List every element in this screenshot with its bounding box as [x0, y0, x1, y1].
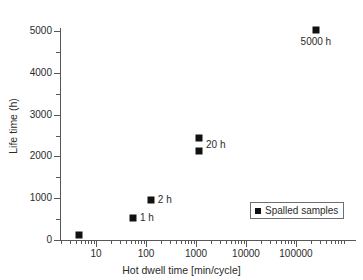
x-tick-minor	[185, 240, 186, 244]
x-tick-minor	[341, 240, 342, 244]
x-tick-minor	[91, 240, 92, 244]
data-point-label: 1 h	[140, 213, 154, 223]
x-tick-minor	[335, 240, 336, 244]
y-tick-label: 5000	[30, 26, 52, 36]
y-tick-minor	[56, 219, 61, 220]
x-tick-minor	[285, 240, 286, 244]
x-tick-minor	[81, 240, 82, 244]
x-tick-minor	[141, 240, 142, 244]
y-tick-major	[54, 198, 61, 199]
data-point-label: 2 h	[158, 195, 172, 205]
x-tick-minor	[88, 240, 89, 244]
y-tick-minor	[56, 52, 61, 53]
y-tick-minor	[56, 94, 61, 95]
x-tick-minor	[331, 240, 332, 244]
x-tick-minor	[170, 240, 171, 244]
x-tick-minor	[111, 240, 112, 244]
y-tick-label: 2000	[30, 151, 52, 161]
legend-marker-icon	[255, 208, 261, 214]
x-tick-minor	[85, 240, 86, 244]
x-tick-minor	[161, 240, 162, 244]
x-tick-minor	[76, 240, 77, 244]
x-tick-minor	[94, 240, 95, 244]
scatter-chart-figure: 0100020003000400050001010010001000010000…	[0, 0, 363, 280]
x-tick-minor	[135, 240, 136, 244]
data-point-marker	[147, 196, 154, 203]
x-tick-major	[146, 240, 147, 247]
x-tick-label: 100000	[279, 249, 312, 259]
x-tick-minor	[188, 240, 189, 244]
y-tick-label: 1000	[30, 193, 52, 203]
x-tick-major	[296, 240, 297, 247]
x-tick-minor	[281, 240, 282, 244]
x-tick-minor	[338, 240, 339, 244]
x-tick-label: 100	[138, 249, 155, 259]
y-tick-minor	[56, 177, 61, 178]
y-axis-line	[60, 28, 61, 241]
data-point-marker	[196, 135, 203, 142]
x-tick-major	[246, 240, 247, 247]
data-point-marker	[130, 215, 137, 222]
x-tick-minor	[244, 240, 245, 244]
x-tick-minor	[276, 240, 277, 244]
x-tick-minor	[61, 240, 62, 244]
y-tick-major	[54, 115, 61, 116]
x-tick-minor	[235, 240, 236, 244]
legend[interactable]: Spalled samples	[250, 202, 344, 219]
x-tick-minor	[138, 240, 139, 244]
y-tick-major	[54, 156, 61, 157]
y-tick-label: 0	[46, 235, 52, 245]
x-tick-minor	[211, 240, 212, 244]
y-tick-minor	[56, 136, 61, 137]
x-tick-minor	[176, 240, 177, 244]
x-tick-major	[96, 240, 97, 247]
x-tick-minor	[191, 240, 192, 244]
x-tick-minor	[291, 240, 292, 244]
x-tick-minor	[294, 240, 295, 244]
x-tick-minor	[181, 240, 182, 244]
y-tick-major	[54, 240, 61, 241]
x-tick-label: 10	[90, 249, 101, 259]
data-point-label: 5000 h	[301, 37, 332, 47]
x-tick-minor	[120, 240, 121, 244]
x-tick-minor	[220, 240, 221, 244]
x-tick-major	[196, 240, 197, 247]
x-tick-label: 1000	[185, 249, 207, 259]
x-axis-title: Hot dwell time [min/cycle]	[0, 264, 363, 276]
y-tick-label: 4000	[30, 68, 52, 78]
x-tick-label: 10000	[232, 249, 260, 259]
y-tick-label: 3000	[30, 110, 52, 120]
x-tick-minor	[288, 240, 289, 244]
x-tick-minor	[231, 240, 232, 244]
x-tick-minor	[126, 240, 127, 244]
y-axis-title: Life time (h)	[7, 66, 19, 186]
x-tick-minor	[320, 240, 321, 244]
data-point-marker	[75, 231, 82, 238]
data-point-marker	[196, 147, 203, 154]
data-point-label: 20 h	[206, 140, 225, 150]
x-tick-minor	[311, 240, 312, 244]
data-point-marker	[312, 26, 319, 33]
legend-label: Spalled samples	[265, 205, 338, 216]
x-tick-minor	[270, 240, 271, 244]
x-tick-minor	[344, 240, 345, 244]
x-tick-minor	[238, 240, 239, 244]
x-tick-minor	[261, 240, 262, 244]
x-tick-minor	[144, 240, 145, 244]
y-tick-major	[54, 73, 61, 74]
x-tick-minor	[194, 240, 195, 244]
x-tick-minor	[241, 240, 242, 244]
x-tick-minor	[70, 240, 71, 244]
y-tick-major	[54, 31, 61, 32]
x-tick-minor	[226, 240, 227, 244]
x-tick-minor	[131, 240, 132, 244]
x-tick-minor	[326, 240, 327, 244]
